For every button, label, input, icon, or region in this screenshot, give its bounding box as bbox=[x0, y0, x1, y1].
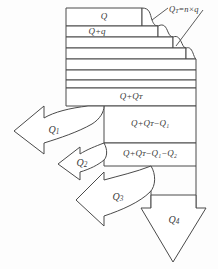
inflow-hook-3 bbox=[173, 36, 186, 48]
band-step-5 bbox=[66, 59, 196, 70]
band-step-3 bbox=[66, 37, 173, 48]
band-after-q1-label: Q+Qᴛ−Q₁ bbox=[131, 118, 169, 128]
inflow-hook-2 bbox=[158, 25, 173, 37]
band-after-q1-q2-label: Q+Qᴛ−Q₁−Q₂ bbox=[123, 148, 177, 158]
band-step-6 bbox=[66, 70, 196, 80]
band-q-plus-q bbox=[66, 26, 158, 37]
inflow-hook-4 bbox=[186, 48, 196, 59]
flow-diagram-canvas: Q1 Q2 Q3 Q4 Q Q+q Q+Qᴛ Q+Qᴛ−Q₁ Q+Qᴛ−Q₁−Q… bbox=[0, 0, 218, 269]
band-total-label: Q+Qᴛ bbox=[120, 91, 143, 101]
band-q-label: Q bbox=[101, 11, 108, 21]
total-input-note: QT=n×q bbox=[169, 4, 199, 14]
band-step-4 bbox=[66, 48, 186, 59]
arrow-q4 bbox=[141, 195, 206, 262]
energy-flow-diagram: Q1 Q2 Q3 Q4 Q Q+q Q+Qᴛ Q+Qᴛ−Q₁ Q+Qᴛ−Q₁−Q… bbox=[0, 0, 218, 269]
band-q-plus-q-label: Q+q bbox=[88, 26, 106, 36]
band-step-7 bbox=[66, 80, 196, 88]
